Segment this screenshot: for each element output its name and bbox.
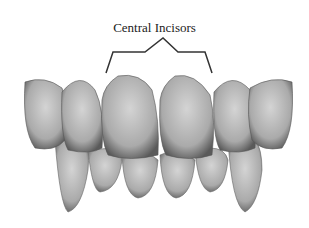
- teeth-illustration: [0, 0, 309, 228]
- bracket-line: [106, 38, 212, 73]
